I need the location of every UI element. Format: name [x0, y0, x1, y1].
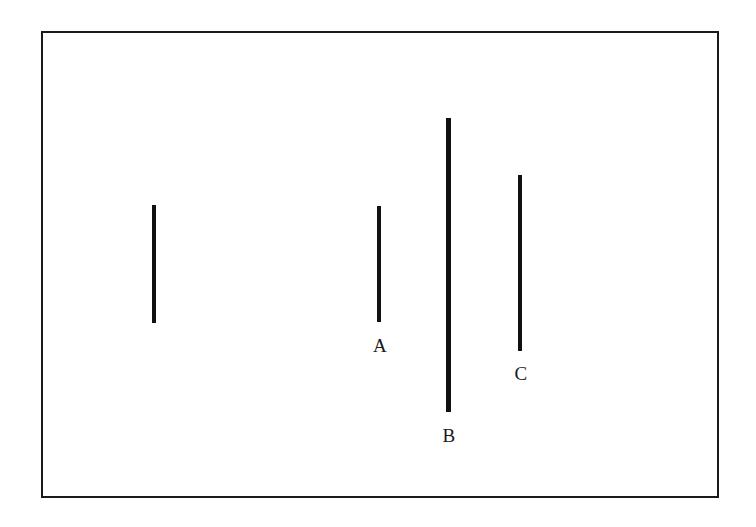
figure-canvas: A B C [0, 0, 756, 527]
line-a-label: A [372, 336, 388, 355]
line-c [518, 175, 522, 351]
line-b-label: B [441, 426, 457, 445]
line-b [446, 118, 451, 412]
reference-line [152, 205, 156, 323]
line-c-label: C [513, 364, 529, 383]
line-a [377, 206, 381, 322]
